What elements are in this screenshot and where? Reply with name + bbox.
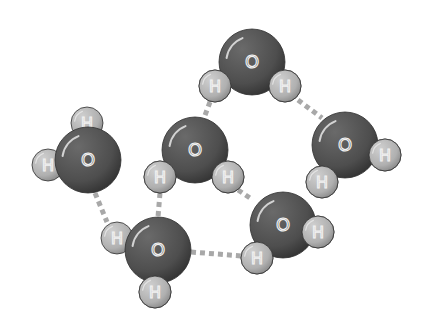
water-molecule-diagram: HHOHHHHOHHHHOHHHHOHHOHHHOHH xyxy=(0,0,428,329)
hydrogen-atom: H xyxy=(199,70,231,102)
hydrogen-bond-dotted-line xyxy=(191,252,242,256)
hydrogen-atom: H xyxy=(139,276,171,308)
hydrogen-bond-dotted-line xyxy=(95,193,107,222)
hydrogen-atom-label: H xyxy=(149,283,161,302)
hydrogen-atom: H xyxy=(144,161,176,193)
water-molecule-water-left: HHO xyxy=(32,107,121,193)
hydrogen-atom-label: H xyxy=(312,223,324,242)
hydrogen-bond-dotted-line xyxy=(238,190,253,200)
water-molecule-water-center: HHOHH xyxy=(144,117,244,193)
hydrogen-atom: H xyxy=(212,161,244,193)
hydrogen-atom: H xyxy=(241,242,273,274)
oxygen-atom-label: O xyxy=(188,139,202,160)
hydrogen-atom-label: H xyxy=(111,229,123,248)
water-molecule-water-right: HHOHH xyxy=(306,112,401,198)
hydrogen-atom: H xyxy=(269,70,301,102)
hydrogen-atom-label: H xyxy=(209,77,221,96)
hydrogen-atom-label: H xyxy=(222,168,234,187)
hydrogen-bond-dotted-line xyxy=(158,193,160,217)
water-molecule-water-top: HHOHH xyxy=(199,29,301,102)
hydrogen-atom: H xyxy=(369,139,401,171)
hydrogen-atom: H xyxy=(306,166,338,198)
water-molecule-water-bottom: HHOH xyxy=(101,217,191,308)
hydrogen-atom-label: H xyxy=(42,156,54,175)
oxygen-atom-label: O xyxy=(151,239,165,260)
oxygen-atom: O xyxy=(55,127,121,193)
hydrogen-atom-label: H xyxy=(316,173,328,192)
hydrogen-bond-dotted-line xyxy=(204,102,210,118)
oxygen-atom: O xyxy=(125,217,191,283)
hydrogen-atom-label: H xyxy=(154,168,166,187)
oxygen-atom-label: O xyxy=(245,51,259,72)
water-molecules: HHOHHHHOHHHHOHHHHOHHOHHHOHH xyxy=(32,29,401,308)
hydrogen-bond-dotted-line xyxy=(298,100,322,118)
hydrogen-atom-label: H xyxy=(279,77,291,96)
oxygen-atom-label: O xyxy=(338,134,352,155)
oxygen-atom-label: O xyxy=(81,149,95,170)
hydrogen-atom-label: H xyxy=(251,249,263,268)
water-molecule-water-bottom-right: HHOHH xyxy=(241,192,334,274)
hydrogen-atom-label: H xyxy=(379,146,391,165)
hydrogen-atom: H xyxy=(302,216,334,248)
oxygen-atom-label: O xyxy=(276,214,290,235)
